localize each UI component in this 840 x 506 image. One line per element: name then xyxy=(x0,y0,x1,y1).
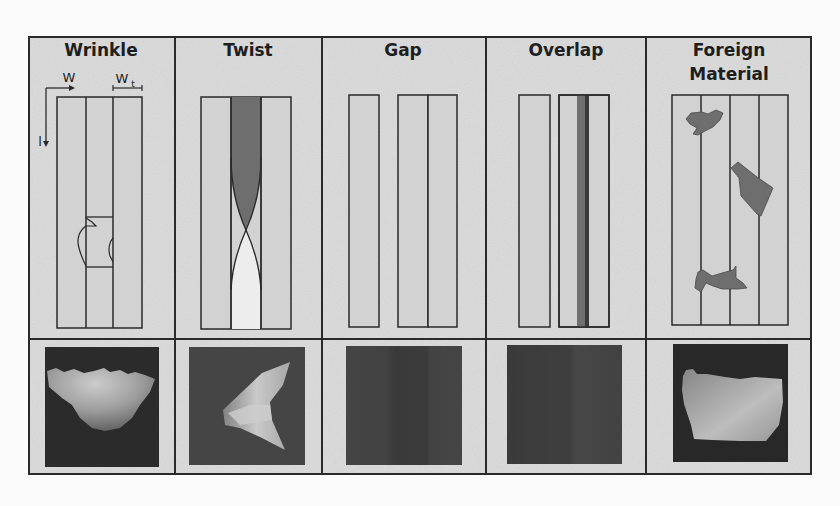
wrinkle-photo xyxy=(45,347,159,467)
foreign-material-photo xyxy=(673,344,788,462)
wt-subscript: t xyxy=(131,79,135,89)
column-title-foreign-line2: Material xyxy=(689,64,769,84)
column-title-gap: Gap xyxy=(384,40,422,60)
wt-label: W xyxy=(116,71,129,86)
defect-types-figure: Wrinkle W l W t xyxy=(0,0,840,506)
tow-strip xyxy=(398,95,428,327)
column-title-wrinkle: Wrinkle xyxy=(64,40,137,60)
column-wrinkle: Wrinkle W l W t xyxy=(38,40,159,467)
overlap-diagram xyxy=(519,95,609,327)
overlap-band xyxy=(577,95,585,327)
column-title-twist: Twist xyxy=(223,40,273,60)
column-twist: Twist xyxy=(189,40,305,465)
column-foreign-material: Foreign Material xyxy=(672,40,788,462)
gap-diagram xyxy=(349,95,457,327)
foreign-material-diagram xyxy=(672,95,788,325)
column-overlap: Overlap xyxy=(507,40,622,464)
l-label: l xyxy=(38,134,42,149)
wrinkle-diagram xyxy=(57,97,142,328)
column-title-foreign-line1: Foreign xyxy=(693,40,766,60)
twist-diagram xyxy=(201,97,291,329)
twist-photo xyxy=(189,347,305,465)
w-label: W xyxy=(63,70,76,85)
tow-strip xyxy=(349,95,379,327)
gap-photo xyxy=(346,346,462,465)
tow-strip xyxy=(428,95,457,327)
overlap-photo xyxy=(507,345,622,464)
overlap-band-edge xyxy=(585,95,589,327)
tow-strip xyxy=(519,95,550,327)
column-title-overlap: Overlap xyxy=(529,40,604,60)
column-gap: Gap xyxy=(346,40,462,465)
